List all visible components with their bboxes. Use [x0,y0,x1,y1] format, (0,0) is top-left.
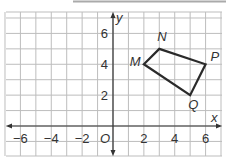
y-tick-label: 2 [101,88,108,103]
vertex-label-n: N [157,29,167,44]
vertex-label-m: M [130,54,141,69]
vertex-label-p: P [211,49,220,64]
y-tick-labels: 246 [101,26,108,103]
vertex-label-q: Q [188,97,198,112]
coordinate-plane: y x O −6−4−2246 246 MNPQ [0,0,226,159]
x-tick-label: 6 [202,131,209,146]
x-axis-left-arrow-icon [6,124,12,129]
x-tick-label: 4 [171,131,178,146]
x-tick-label: −4 [44,131,59,146]
y-tick-label: 4 [101,57,108,72]
origin-label: O [100,131,110,146]
y-axis-down-arrow-icon [111,150,116,156]
x-tick-labels: −6−4−2246 [13,131,209,146]
y-tick-label: 6 [101,26,108,41]
x-tick-label: −6 [13,131,28,146]
x-tick-label: 2 [140,131,147,146]
x-axis-label: x [210,110,218,125]
x-tick-label: −2 [75,131,90,146]
y-axis-up-arrow-icon [111,12,116,18]
